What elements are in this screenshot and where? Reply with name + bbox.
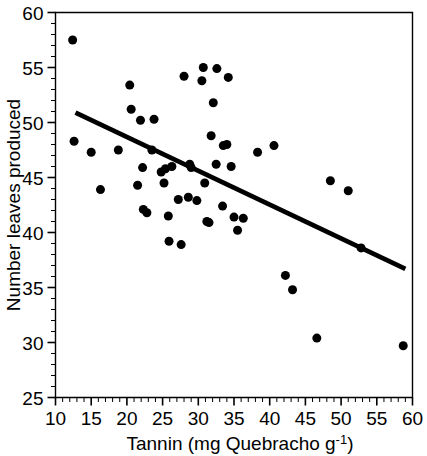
- data-point: [230, 213, 239, 222]
- data-point: [142, 208, 151, 217]
- data-point: [164, 212, 173, 221]
- data-point: [187, 163, 196, 172]
- data-point: [138, 163, 147, 172]
- x-tick-label: 35: [223, 408, 244, 429]
- data-point: [253, 148, 262, 157]
- x-tick-label: 25: [152, 408, 173, 429]
- data-point: [150, 115, 159, 124]
- x-tick-label: 60: [402, 408, 423, 429]
- x-tick-label: 45: [295, 408, 316, 429]
- data-point: [192, 196, 201, 205]
- data-point: [199, 63, 208, 72]
- data-point: [312, 334, 321, 343]
- data-point: [233, 226, 242, 235]
- data-point: [218, 202, 227, 211]
- data-point: [68, 36, 77, 45]
- data-point: [212, 160, 221, 169]
- data-point: [147, 146, 156, 155]
- x-axis-title: Tannin (mg Quebracho g-1): [126, 432, 353, 454]
- x-tick-label: 50: [331, 408, 352, 429]
- x-tick-label: 10: [45, 408, 66, 429]
- x-tick-label: 40: [259, 408, 280, 429]
- data-point: [125, 81, 134, 90]
- x-tick-label: 30: [188, 408, 209, 429]
- data-point: [165, 237, 174, 246]
- y-tick-label: 50: [22, 113, 43, 134]
- x-tick-label: 20: [116, 408, 137, 429]
- data-point: [209, 98, 218, 107]
- y-tick-label: 45: [22, 168, 43, 189]
- data-point: [207, 131, 216, 140]
- data-point: [177, 240, 186, 249]
- data-point: [184, 193, 193, 202]
- data-point: [344, 186, 353, 195]
- data-point: [239, 214, 248, 223]
- y-tick-label: 40: [22, 223, 43, 244]
- data-point: [399, 341, 408, 350]
- data-point: [222, 140, 231, 149]
- x-tick-label: 55: [366, 408, 387, 429]
- x-tick-label: 15: [81, 408, 102, 429]
- data-point: [200, 179, 209, 188]
- data-point: [326, 176, 335, 185]
- data-point: [127, 105, 136, 114]
- data-point: [205, 218, 214, 227]
- y-axis-title: Number leaves produced: [3, 99, 24, 311]
- regression-trend-line: [75, 113, 405, 269]
- plot-frame: [56, 13, 413, 398]
- data-point: [357, 243, 366, 252]
- y-tick-label: 35: [22, 278, 43, 299]
- data-point: [87, 148, 96, 157]
- data-point: [70, 137, 79, 146]
- data-point: [180, 72, 189, 81]
- y-tick-label: 25: [22, 388, 43, 409]
- data-point: [224, 73, 233, 82]
- y-tick-label: 30: [22, 333, 43, 354]
- data-point: [160, 179, 169, 188]
- data-point: [114, 146, 123, 155]
- data-point: [227, 162, 236, 171]
- data-point: [167, 162, 176, 171]
- y-tick-label: 55: [22, 58, 43, 79]
- data-point: [288, 285, 297, 294]
- data-point: [136, 116, 145, 125]
- data-point: [96, 185, 105, 194]
- data-point: [212, 64, 221, 73]
- data-point: [174, 195, 183, 204]
- data-point: [269, 141, 278, 150]
- data-point: [133, 181, 142, 190]
- chart-canvas: 25303540455055601015202530354045505560Ta…: [0, 0, 427, 456]
- data-point: [197, 76, 206, 85]
- data-point: [281, 271, 290, 280]
- scatter-plot-figure: 25303540455055601015202530354045505560Ta…: [0, 0, 427, 456]
- y-tick-label: 60: [22, 3, 43, 24]
